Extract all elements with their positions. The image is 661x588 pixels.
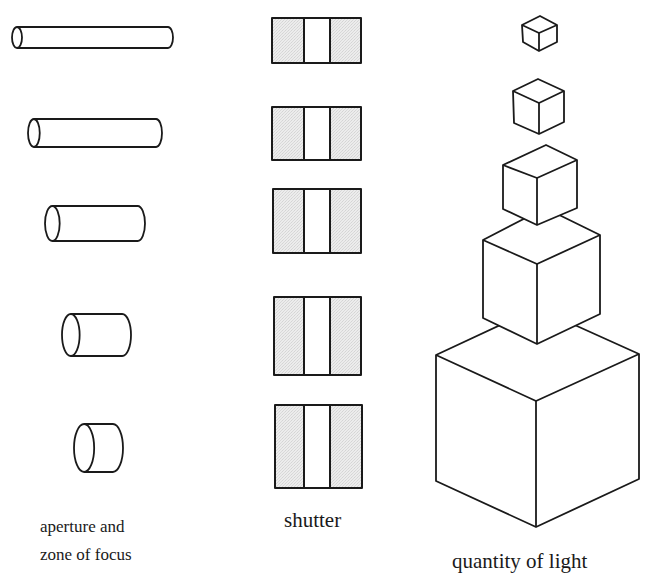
cylinder-4	[62, 314, 131, 356]
aperture-cylinders	[12, 27, 173, 472]
aperture-label: aperture and zone of focus	[40, 513, 132, 569]
shutter-5	[275, 405, 362, 488]
cylinder-3	[45, 206, 145, 241]
cube-1	[522, 16, 557, 51]
shutter-4	[274, 297, 361, 375]
aperture-label-line2: zone of focus	[40, 541, 132, 569]
shutter-1	[272, 18, 361, 63]
cylinder-1	[12, 27, 173, 48]
cube-2	[513, 79, 564, 134]
aperture-label-line1: aperture and	[40, 513, 132, 541]
shutter-frames	[272, 18, 362, 488]
cylinder-5	[74, 424, 123, 472]
shutter-label: shutter	[284, 508, 341, 533]
quantity-of-light-label: quantity of light	[452, 549, 587, 574]
exposure-diagram	[0, 0, 661, 588]
shutter-3	[273, 189, 361, 253]
cube-4	[483, 208, 600, 344]
cylinder-2	[28, 119, 162, 147]
cube-3	[503, 145, 577, 225]
light-cubes	[436, 16, 639, 527]
shutter-2	[272, 107, 361, 160]
